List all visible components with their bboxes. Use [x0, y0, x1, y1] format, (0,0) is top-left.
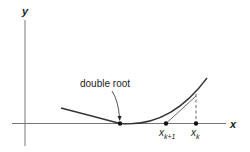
- xk1-label-sub: k+1: [164, 133, 175, 140]
- y-axis-label: y: [22, 6, 28, 17]
- tangent-line: [166, 96, 196, 124]
- xk1-label: xk+1: [159, 128, 175, 140]
- xk-label-sub: k: [196, 133, 200, 140]
- arrowhead-icon: [118, 116, 122, 121]
- diagram-canvas: [0, 0, 250, 152]
- xk-label: xk: [191, 128, 200, 140]
- x-axis-label: x: [230, 119, 236, 130]
- double-root-point: [118, 121, 122, 125]
- double-root-label: double root: [80, 79, 130, 89]
- xk1-point: [164, 121, 168, 125]
- newton-double-root-figure: y x double root xk+1 xk: [0, 0, 250, 152]
- xk-point: [194, 121, 198, 125]
- double-root-arrow: [112, 91, 120, 117]
